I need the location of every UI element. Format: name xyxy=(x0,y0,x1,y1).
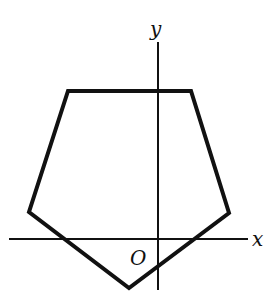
coordinate-diagram: y x O xyxy=(0,0,279,298)
pentagon xyxy=(29,91,229,288)
y-axis-label: y xyxy=(149,17,162,41)
origin-label: O xyxy=(130,246,146,270)
x-axis-label: x xyxy=(252,227,263,251)
